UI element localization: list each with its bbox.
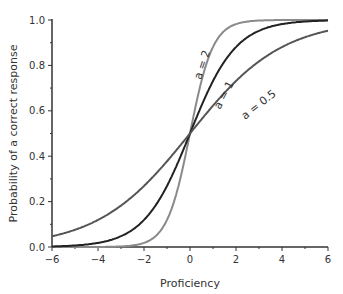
curve-annotation: a = 0.5: [239, 87, 279, 122]
x-axis-label: Proficiency: [160, 277, 220, 290]
x-tick-label: 6: [325, 254, 331, 265]
chart: −6−4−202460.00.20.40.60.81.0 Proficiency…: [0, 0, 343, 294]
y-tick-label: 0.2: [29, 196, 45, 207]
curves: [52, 20, 328, 247]
y-tick-label: 0.6: [29, 105, 45, 116]
x-tick-label: −2: [137, 254, 152, 265]
y-tick-label: 1.0: [29, 15, 45, 26]
y-axis-label: Probability of a correct response: [7, 44, 20, 222]
x-tick-label: 0: [187, 254, 193, 265]
x-tick-label: −4: [91, 254, 106, 265]
y-tick-label: 0.0: [29, 242, 45, 253]
axes: −6−4−202460.00.20.40.60.81.0: [29, 15, 331, 266]
curve-a-0.5: [52, 31, 328, 236]
curve-annotation: a = 2: [191, 48, 213, 81]
curve-annotation: a = 1: [211, 79, 237, 112]
x-tick-label: −6: [45, 254, 60, 265]
x-tick-label: 2: [233, 254, 239, 265]
x-tick-label: 4: [279, 254, 285, 265]
y-tick-label: 0.8: [29, 60, 45, 71]
y-tick-label: 0.4: [29, 151, 45, 162]
